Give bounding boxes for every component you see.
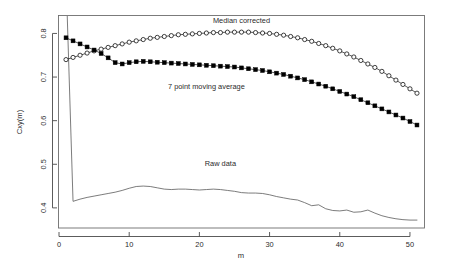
- data-point-moving-average: [190, 62, 194, 66]
- data-point-median-corrected: [253, 30, 257, 34]
- data-point-moving-average: [169, 61, 173, 65]
- data-point-moving-average: [282, 72, 286, 76]
- data-point-moving-average: [155, 60, 159, 64]
- data-point-moving-average: [289, 74, 293, 78]
- data-point-moving-average: [261, 69, 265, 73]
- data-point-median-corrected: [113, 44, 117, 48]
- data-point-median-corrected: [204, 31, 208, 35]
- data-point-moving-average: [197, 63, 201, 67]
- data-point-median-corrected: [190, 32, 194, 36]
- data-point-median-corrected: [260, 31, 264, 35]
- data-point-median-corrected: [324, 44, 328, 48]
- data-point-moving-average: [324, 84, 328, 88]
- data-point-median-corrected: [408, 87, 412, 91]
- data-point-median-corrected: [106, 45, 110, 49]
- data-point-moving-average: [99, 52, 103, 56]
- chart-figure: 0.40.50.60.70.8 01020304050 m Cxy(m) Med…: [0, 0, 450, 277]
- data-point-moving-average: [113, 61, 117, 65]
- data-point-median-corrected: [303, 37, 307, 41]
- data-point-median-corrected: [232, 30, 236, 34]
- data-point-median-corrected: [141, 37, 145, 41]
- y-tick-label: 0.4: [39, 203, 48, 213]
- data-point-moving-average: [303, 78, 307, 82]
- data-point-median-corrected: [394, 78, 398, 82]
- data-point-median-corrected: [127, 40, 131, 44]
- data-point-median-corrected: [78, 53, 82, 57]
- data-point-moving-average: [296, 76, 300, 80]
- data-point-moving-average: [254, 68, 258, 72]
- data-point-moving-average: [226, 65, 230, 69]
- data-point-median-corrected: [275, 32, 279, 36]
- data-point-median-corrected: [366, 62, 370, 66]
- data-point-moving-average: [359, 98, 363, 102]
- data-point-median-corrected: [225, 30, 229, 34]
- data-point-moving-average: [394, 113, 398, 117]
- x-tick-label: 10: [125, 240, 133, 249]
- data-point-moving-average: [134, 60, 138, 64]
- data-point-median-corrected: [380, 69, 384, 73]
- data-point-median-corrected: [373, 65, 377, 69]
- data-point-moving-average: [317, 82, 321, 86]
- data-point-moving-average: [211, 64, 215, 68]
- data-point-median-corrected: [352, 55, 356, 59]
- data-point-median-corrected: [99, 47, 103, 51]
- data-point-moving-average: [127, 61, 131, 65]
- data-point-moving-average: [218, 64, 222, 68]
- data-point-moving-average: [162, 61, 166, 65]
- data-point-moving-average: [120, 62, 124, 66]
- data-point-moving-average: [92, 48, 96, 52]
- y-tick-label: 0.6: [39, 116, 48, 126]
- data-point-moving-average: [141, 59, 145, 63]
- data-point-moving-average: [380, 107, 384, 111]
- data-point-median-corrected: [239, 30, 243, 34]
- data-point-moving-average: [352, 95, 356, 99]
- chart-annotation-label: Median corrected: [213, 16, 270, 25]
- data-point-moving-average: [240, 66, 244, 70]
- data-point-moving-average: [387, 110, 391, 114]
- data-point-moving-average: [204, 63, 208, 67]
- data-point-median-corrected: [134, 39, 138, 43]
- data-point-median-corrected: [282, 33, 286, 37]
- data-point-median-corrected: [359, 58, 363, 62]
- data-point-moving-average: [408, 120, 412, 124]
- chart-annotation-label: 7 point moving average: [168, 82, 245, 91]
- data-point-moving-average: [148, 60, 152, 64]
- data-point-moving-average: [78, 42, 82, 46]
- data-point-median-corrected: [401, 82, 405, 86]
- data-point-median-corrected: [211, 30, 215, 34]
- data-point-moving-average: [373, 104, 377, 108]
- data-point-median-corrected: [415, 91, 419, 95]
- y-tick-label: 0.7: [39, 72, 48, 82]
- x-tick-label: 0: [57, 240, 61, 249]
- x-axis-title: m: [238, 251, 244, 260]
- x-tick-label: 20: [195, 240, 203, 249]
- data-point-moving-average: [233, 65, 237, 69]
- data-point-median-corrected: [387, 74, 391, 78]
- data-point-median-corrected: [176, 33, 180, 37]
- data-point-median-corrected: [162, 34, 166, 38]
- data-point-median-corrected: [296, 36, 300, 40]
- data-point-moving-average: [331, 87, 335, 91]
- data-point-median-corrected: [338, 49, 342, 53]
- data-point-median-corrected: [183, 32, 187, 36]
- data-point-median-corrected: [71, 55, 75, 59]
- data-point-median-corrected: [64, 58, 68, 62]
- data-point-moving-average: [366, 101, 370, 105]
- data-point-median-corrected: [120, 42, 124, 46]
- data-point-median-corrected: [155, 35, 159, 39]
- data-point-moving-average: [85, 45, 89, 49]
- chart-annotation-label: Raw data: [205, 159, 237, 168]
- data-point-median-corrected: [289, 34, 293, 38]
- data-point-median-corrected: [310, 39, 314, 43]
- data-point-median-corrected: [246, 30, 250, 34]
- data-point-moving-average: [176, 62, 180, 66]
- data-point-median-corrected: [317, 41, 321, 45]
- data-point-moving-average: [183, 62, 187, 66]
- y-tick-label: 0.8: [39, 28, 48, 38]
- data-point-median-corrected: [345, 52, 349, 56]
- y-axis-title: Cxy(m): [15, 109, 24, 134]
- data-point-median-corrected: [197, 31, 201, 35]
- data-point-median-corrected: [331, 46, 335, 50]
- data-point-moving-average: [106, 56, 110, 60]
- chart-background: [0, 0, 450, 277]
